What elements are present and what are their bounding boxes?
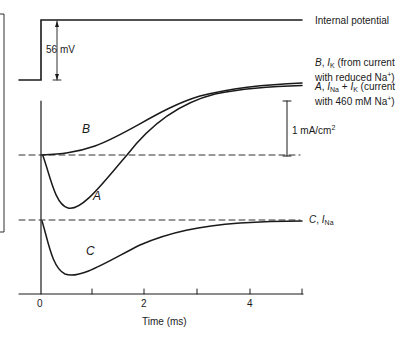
curve-c xyxy=(42,221,302,275)
legend-a-line2: with 460 mM Na+) xyxy=(315,93,395,108)
tick-label-4: 4 xyxy=(247,298,253,310)
scale-bar-label: 1 mA/cm2 xyxy=(292,122,335,137)
tick-label-2: 2 xyxy=(141,298,147,310)
tick-label-0: 0 xyxy=(37,298,43,310)
curve-label-c: C xyxy=(86,245,95,257)
curve-b xyxy=(42,83,302,155)
curve-label-a: A xyxy=(93,190,101,202)
amplitude-label: 56 mV xyxy=(46,44,75,56)
curve-label-b: B xyxy=(82,123,90,135)
legend-c-letter: C xyxy=(309,214,316,225)
arrow-head-bottom xyxy=(55,74,59,80)
arrow-head-top xyxy=(55,21,59,27)
curve-a xyxy=(43,86,302,209)
legend-a-letter: A xyxy=(315,81,322,92)
internal-potential-label: Internal potential xyxy=(315,15,389,27)
left-frame xyxy=(0,14,4,232)
legend-c: C, INa xyxy=(309,214,334,229)
axis-ticks xyxy=(92,289,302,294)
x-axis-title: Time (ms) xyxy=(142,316,187,328)
legend-b-letter: B xyxy=(315,57,322,68)
